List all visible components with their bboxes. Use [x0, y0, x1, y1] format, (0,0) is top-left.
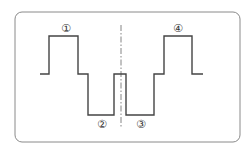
diagram-frame	[15, 12, 240, 142]
diagram-canvas: ① ② ③ ④	[0, 0, 248, 148]
label-4: ④	[173, 22, 183, 35]
waveform-diagram: ① ② ③ ④	[0, 0, 248, 148]
label-2: ②	[97, 118, 107, 131]
label-3: ③	[136, 118, 146, 131]
label-1: ①	[61, 22, 71, 35]
square-waveform	[40, 36, 203, 115]
